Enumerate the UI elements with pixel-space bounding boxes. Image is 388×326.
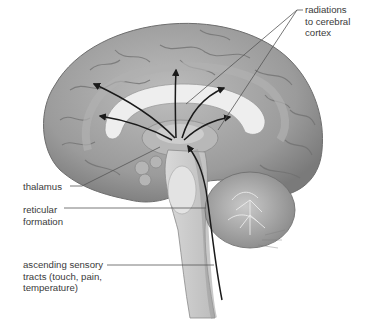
label-thalamus: thalamus (23, 181, 62, 193)
cerebellum (205, 172, 295, 248)
label-ascending-sensory-tracts: ascending sensory tracts (touch, pain, t… (23, 259, 103, 294)
label-reticular-formation: reticular formation (23, 204, 63, 227)
brainstem (165, 150, 215, 318)
label-radiations-to-cerebral-cortex: radiations to cerebral cortex (305, 4, 350, 39)
